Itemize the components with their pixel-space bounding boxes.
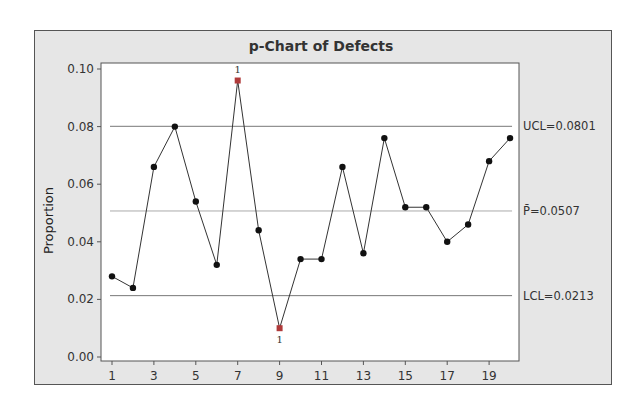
x-tick-label: 11: [314, 369, 329, 383]
data-point: [465, 221, 471, 227]
x-tick-label: 15: [398, 369, 413, 383]
flag-label: 1: [276, 334, 282, 345]
x-tick-label: 17: [440, 369, 455, 383]
data-point: [423, 204, 429, 210]
x-tick-label: 5: [192, 369, 200, 383]
ucl-label: UCL=0.0801: [523, 119, 596, 133]
y-tick-label: 0.08: [67, 120, 94, 134]
data-point: [214, 262, 220, 268]
data-point: [151, 164, 157, 170]
data-point: [130, 285, 136, 291]
data-point: [360, 250, 366, 256]
x-tick-label: 3: [150, 369, 158, 383]
data-point: [339, 164, 345, 170]
flagged-point-marker: [277, 325, 283, 331]
y-tick-label: 0.04: [67, 235, 94, 249]
data-point: [318, 256, 324, 262]
x-tick-label: 7: [234, 369, 242, 383]
lcl-label: LCL=0.0213: [523, 289, 594, 303]
x-tick-label: 13: [356, 369, 371, 383]
data-point: [402, 204, 408, 210]
flagged-point-marker: [235, 78, 241, 84]
data-point: [109, 273, 115, 279]
flag-label: 1: [235, 64, 241, 75]
data-point: [486, 158, 492, 164]
data-point: [297, 256, 303, 262]
plot-area: [101, 63, 519, 361]
data-point: [193, 198, 199, 204]
y-tick-label: 0.02: [67, 292, 94, 306]
x-tick-label: 1: [108, 369, 116, 383]
data-point: [507, 135, 513, 141]
x-tick-label: 9: [276, 369, 284, 383]
p-chart-plot: 0.000.020.040.060.080.10135791113151719U…: [0, 0, 642, 409]
y-tick-label: 0.10: [67, 62, 94, 76]
data-point: [172, 123, 178, 129]
data-point: [255, 227, 261, 233]
data-point: [381, 135, 387, 141]
center-label: P̄=0.0507: [523, 204, 580, 218]
y-tick-label: 0.00: [67, 350, 94, 364]
x-tick-label: 19: [481, 369, 496, 383]
y-tick-label: 0.06: [67, 177, 94, 191]
data-point: [444, 239, 450, 245]
